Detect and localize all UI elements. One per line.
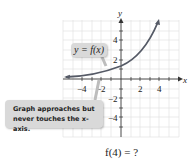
tick-x-neg4: −4	[77, 84, 87, 94]
curve-arrow-left-icon	[64, 75, 70, 79]
note-pointer	[95, 80, 99, 100]
question-text: f(4) = ?	[105, 146, 138, 158]
x-axis-label: x	[182, 75, 187, 85]
curve-arrow-right-icon	[155, 19, 160, 25]
note-line-1: Graph approaches but	[13, 104, 103, 114]
asymptote-note-callout: Graph approaches but never touches the x…	[5, 100, 103, 128]
fn-pointer	[102, 57, 106, 66]
exponential-graph: x y −4 −2 2 4 4 2 −2 −4	[0, 0, 191, 165]
tick-x-4: 4	[157, 84, 162, 94]
y-axis-label: y	[117, 8, 122, 18]
tick-y-neg4: −4	[108, 113, 118, 123]
tick-y-2: 2	[113, 55, 118, 65]
tick-y-neg2: −2	[108, 94, 118, 104]
tick-y-4: 4	[113, 35, 118, 45]
y-axis-arrow-icon	[119, 18, 124, 23]
note-line-2: never touches the x-axis.	[13, 114, 103, 134]
tick-x-2: 2	[138, 84, 143, 94]
function-label-callout: y = f(x)	[71, 43, 107, 57]
